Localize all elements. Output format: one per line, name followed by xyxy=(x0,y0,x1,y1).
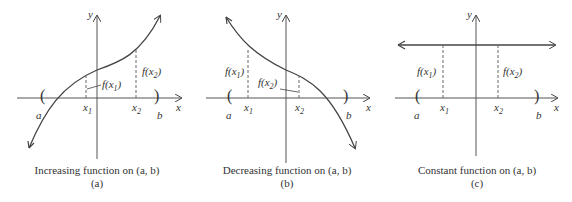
caption-c-sublabel: (c) xyxy=(382,177,572,190)
a-label: a xyxy=(414,109,420,121)
b-label: b xyxy=(346,109,352,121)
open-paren-a: ( xyxy=(40,87,45,105)
decreasing-curve xyxy=(226,17,355,148)
x-label: x xyxy=(175,101,181,113)
x1-label: x1 xyxy=(243,101,253,116)
caption-b: Decreasing function on (a, b) (b) xyxy=(192,164,382,190)
fx2-leader xyxy=(280,89,298,92)
panel-a-increasing: ( ) y x a b x1 x2 f(x1) f(x2) xyxy=(17,8,181,159)
close-paren-b: ) xyxy=(343,87,348,105)
fx2-label: f(x2) xyxy=(142,65,162,80)
open-paren-a: ( xyxy=(227,87,232,105)
x2-label: x2 xyxy=(294,101,304,116)
close-paren-b: ) xyxy=(534,87,539,105)
open-paren-a: ( xyxy=(415,87,420,105)
caption-a: Increasing function on (a, b) (a) xyxy=(2,164,192,190)
increasing-curve xyxy=(29,16,160,148)
panel-b-decreasing: ( ) y x a b x1 x2 f(x1) f(x2) xyxy=(206,8,371,163)
b-label: b xyxy=(536,109,542,121)
x2-label: x2 xyxy=(493,101,503,116)
caption-a-sublabel: (a) xyxy=(2,177,192,190)
y-label: y xyxy=(276,8,282,20)
b-label: b xyxy=(157,109,163,121)
a-label: a xyxy=(36,109,42,121)
fx2-label: f(x2) xyxy=(258,76,278,91)
caption-c: Constant function on (a, b) (c) xyxy=(382,164,572,190)
caption-b-sublabel: (b) xyxy=(192,177,382,190)
panel-c-constant: ( ) y x a b x1 x2 f(x1) f(x2) xyxy=(395,8,559,156)
close-paren-b: ) xyxy=(154,87,159,105)
curve-start-arrow-icon xyxy=(226,17,232,24)
y-label: y xyxy=(466,8,472,20)
caption-b-text: Decreasing function on (a, b) xyxy=(192,164,382,177)
x-label: x xyxy=(365,101,371,113)
fx1-label: f(x1) xyxy=(225,65,245,80)
fx1-leader xyxy=(87,85,101,89)
fx1-label: f(x1) xyxy=(102,78,122,93)
caption-a-text: Increasing function on (a, b) xyxy=(2,164,192,177)
fx2-label: f(x2) xyxy=(503,65,523,80)
a-label: a xyxy=(226,109,232,121)
fx1-label: f(x1) xyxy=(417,65,437,80)
x-label: x xyxy=(553,101,559,113)
x1-label: x1 xyxy=(439,101,449,116)
x2-label: x2 xyxy=(131,101,141,116)
y-label: y xyxy=(87,8,93,20)
caption-c-text: Constant function on (a, b) xyxy=(382,164,572,177)
x1-label: x1 xyxy=(82,101,92,116)
